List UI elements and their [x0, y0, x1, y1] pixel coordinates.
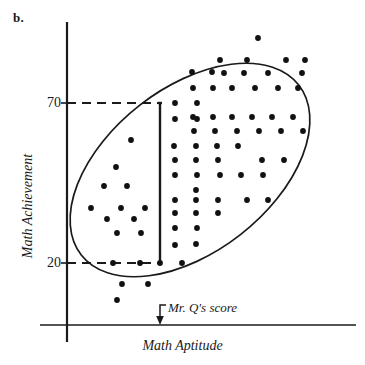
y-axis-title: Math Achievement — [20, 121, 36, 291]
data-point — [217, 172, 223, 178]
data-point — [210, 85, 216, 91]
data-point — [252, 85, 258, 91]
data-point — [189, 69, 195, 75]
reference-lines-group — [67, 102, 162, 264]
x-axis-title: Math Aptitude — [0, 338, 365, 354]
data-point — [137, 260, 143, 266]
mr-q-score-annotation: Mr. Q's score — [168, 300, 237, 316]
data-point — [193, 187, 199, 193]
data-point — [212, 128, 218, 134]
data-point — [265, 197, 271, 203]
data-point — [172, 172, 178, 178]
data-points-group — [88, 35, 308, 303]
data-point — [194, 225, 200, 231]
data-point — [131, 216, 137, 222]
data-point — [283, 57, 289, 63]
data-point — [299, 70, 305, 76]
data-point — [221, 70, 227, 76]
data-point — [191, 128, 197, 134]
data-point — [265, 70, 271, 76]
data-point — [193, 157, 199, 163]
data-point — [249, 114, 255, 120]
data-point — [215, 157, 221, 163]
data-point — [118, 205, 124, 211]
data-point — [302, 57, 308, 63]
data-point — [255, 35, 261, 41]
data-point — [259, 157, 265, 163]
data-point — [275, 85, 281, 91]
data-point — [104, 216, 110, 222]
data-point — [193, 210, 199, 216]
data-point — [171, 143, 177, 149]
data-point — [300, 128, 306, 134]
data-point — [138, 230, 144, 236]
data-point — [244, 197, 250, 203]
data-point — [88, 205, 94, 211]
data-point — [172, 197, 178, 203]
data-point — [278, 128, 284, 134]
data-point — [190, 85, 196, 91]
data-point — [179, 260, 185, 266]
data-point — [113, 164, 119, 170]
data-point — [295, 85, 301, 91]
data-point — [193, 143, 199, 149]
data-point — [142, 205, 148, 211]
data-point — [260, 172, 266, 178]
data-point — [145, 281, 151, 287]
data-point — [215, 197, 221, 203]
data-point — [172, 242, 178, 248]
data-point — [172, 157, 178, 163]
data-point — [194, 172, 200, 178]
data-point — [172, 100, 178, 106]
data-point — [157, 260, 163, 266]
data-point — [193, 241, 199, 247]
data-point — [281, 157, 287, 163]
data-point — [128, 137, 134, 143]
data-point — [193, 197, 199, 203]
data-point — [217, 57, 223, 63]
data-point — [238, 172, 244, 178]
data-point — [114, 230, 120, 236]
data-point — [110, 260, 116, 266]
data-point — [172, 116, 178, 122]
data-point — [194, 100, 200, 106]
axes-group — [40, 22, 356, 342]
data-point — [229, 114, 235, 120]
data-point — [209, 69, 215, 75]
data-point — [269, 114, 275, 120]
y-tick-label-70: 70 — [31, 95, 61, 111]
data-point — [124, 183, 130, 189]
data-point — [215, 210, 221, 216]
data-point — [210, 114, 216, 120]
data-point — [256, 128, 262, 134]
data-point — [234, 128, 240, 134]
data-point — [119, 281, 125, 287]
data-point — [101, 183, 107, 189]
data-point — [114, 297, 120, 303]
data-point — [194, 116, 200, 122]
data-point — [235, 143, 241, 149]
data-point — [172, 225, 178, 231]
scatter-plot-figure: b. 70 20 Math Achievement Math Aptitude … — [0, 0, 365, 365]
correlation-ellipse — [31, 20, 349, 319]
data-point — [290, 114, 296, 120]
data-point — [229, 85, 235, 91]
mr-q-score-pointer — [156, 305, 166, 325]
data-point — [172, 210, 178, 216]
data-point — [244, 57, 250, 63]
data-point — [241, 70, 247, 76]
data-point — [214, 143, 220, 149]
